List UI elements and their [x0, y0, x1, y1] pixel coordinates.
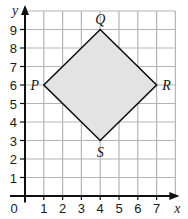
x-tick-label: 2: [59, 201, 66, 216]
y-axis-arrow-icon: [21, 5, 29, 15]
x-tick-label: 7: [153, 201, 160, 216]
y-tick-label: 9: [10, 23, 17, 38]
x-tick-label: 5: [115, 201, 122, 216]
y-tick-label: 6: [10, 78, 17, 93]
y-tick-label: 3: [10, 134, 17, 149]
y-tick-label: 5: [10, 97, 17, 112]
y-tick-label: 7: [10, 60, 17, 75]
x-tick-label: 3: [78, 201, 85, 216]
vertex-label-r: R: [161, 78, 171, 93]
y-tick-label: 2: [10, 152, 17, 167]
vertex-label-q: Q: [95, 12, 105, 27]
y-tick-label: 1: [10, 171, 17, 186]
x-axis-label: x: [173, 201, 181, 216]
y-tick-label: 8: [10, 41, 17, 56]
x-tick-label: 6: [134, 201, 141, 216]
vertex-label-p: P: [30, 78, 40, 93]
y-axis-label: y: [10, 3, 19, 18]
x-tick-label: 1: [40, 201, 47, 216]
vertex-label-s: S: [97, 145, 104, 160]
square-pqrs: [44, 30, 157, 141]
coordinate-grid-diagram: 12345671234567890yxPQRS: [0, 0, 188, 219]
y-tick-label: 4: [10, 115, 17, 130]
x-tick-label: 4: [97, 201, 104, 216]
origin-label: 0: [10, 201, 17, 216]
x-axis-arrow-icon: [169, 192, 179, 200]
